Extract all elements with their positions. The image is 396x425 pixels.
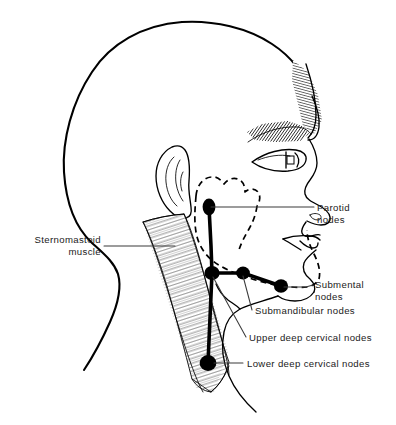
label-sternomastoid-line2: muscle [69, 246, 102, 257]
label-sternomastoid-line1: Sternomastoid [35, 234, 101, 245]
leader-submandibular [243, 276, 252, 310]
label-submental-line1: Submental [315, 279, 364, 290]
label-submandibular: Submandibular nodes [255, 305, 355, 316]
figure-canvas: Sternomastoid muscle Parotid nodes Subme… [0, 0, 396, 425]
label-upper-deep-cervical: Upper deep cervical nodes [249, 332, 372, 343]
label-parotid-line2: nodes [317, 214, 345, 225]
label-lower-deep-cervical: Lower deep cervical nodes [247, 358, 370, 369]
sternomastoid-muscle [135, 205, 240, 400]
anatomy-figure: Sternomastoid muscle Parotid nodes Subme… [0, 0, 396, 425]
label-submental-line2: nodes [315, 291, 343, 302]
upper-deep-cervical-node [204, 266, 219, 280]
submental-node [274, 279, 288, 292]
leader-submental [284, 285, 313, 287]
label-parotid-line1: Parotid [317, 202, 350, 213]
ear [156, 146, 191, 218]
